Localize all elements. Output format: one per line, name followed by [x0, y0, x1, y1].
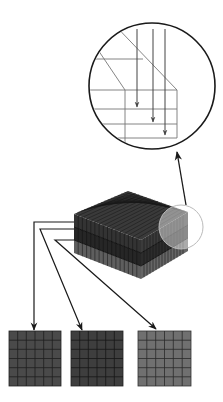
diagram-svg — [0, 0, 223, 402]
slice-grid-1 — [9, 331, 61, 386]
slice-grid-2 — [71, 331, 123, 386]
zoom-arrow — [177, 152, 186, 205]
leader-line-1 — [34, 222, 74, 330]
slice-grid-3 — [138, 331, 191, 386]
magnifier-circle — [89, 23, 215, 149]
magnifier-lens — [159, 205, 203, 249]
magnifier-view — [80, 18, 215, 160]
diagram-canvas: Layered voxel block decomposed into thre… — [0, 0, 223, 402]
voxel-block — [74, 191, 203, 279]
